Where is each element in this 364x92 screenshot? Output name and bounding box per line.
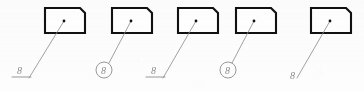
callout-1-leader-dot: [63, 20, 66, 23]
callout-5-text: 8: [290, 70, 295, 81]
drawing-sheet: 88888: [0, 0, 364, 92]
callout-labels-layer: 88888: [12, 62, 295, 81]
callout-4-text: 8: [225, 65, 230, 76]
shapes-layer: [45, 8, 351, 33]
part-3: [178, 8, 218, 33]
part-4: [236, 8, 276, 33]
callout-3-text: 8: [151, 65, 156, 76]
technical-drawing-canvas: 88888: [0, 0, 364, 92]
callout-3-leader-dot: [195, 20, 198, 23]
callout-5-leader-dot: [329, 20, 332, 23]
callout-2-leader-dot: [130, 20, 133, 23]
callout-1-text: 8: [17, 65, 22, 76]
callout-2-text: 8: [101, 65, 106, 76]
callout-4-leader-dot: [253, 20, 256, 23]
